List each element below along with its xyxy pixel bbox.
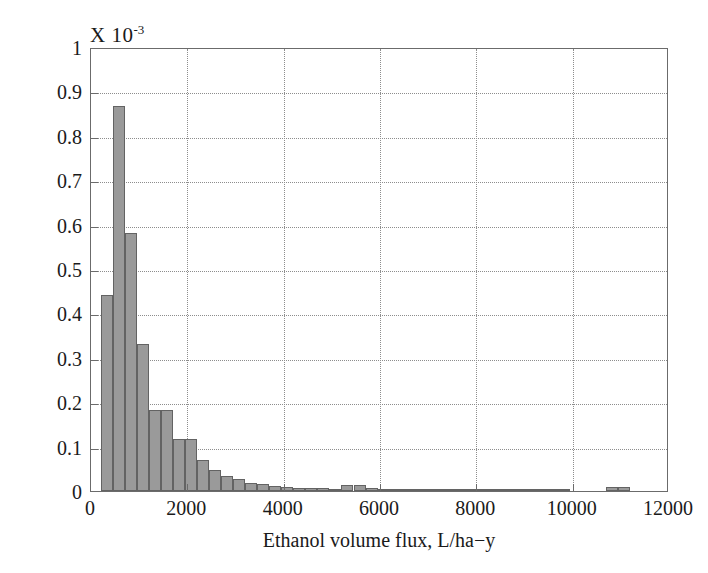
y-tick-label: 0.6 bbox=[22, 216, 82, 236]
tick-mark-y bbox=[91, 138, 98, 139]
y-tick-label: 0.2 bbox=[22, 393, 82, 413]
tick-mark-y bbox=[91, 449, 98, 450]
chart-figure: X 10-3 Probability distribution function… bbox=[0, 0, 708, 573]
exponent-prefix: X 10 bbox=[90, 23, 133, 47]
y-tick-label: 0.1 bbox=[22, 438, 82, 458]
tick-mark-x bbox=[187, 484, 188, 491]
x-axis-title: Ethanol volume flux, L/ha−y bbox=[90, 529, 668, 552]
y-tick-label: 0.4 bbox=[22, 304, 82, 324]
tick-mark-x bbox=[573, 484, 574, 491]
tick-mark-y bbox=[91, 404, 98, 405]
y-tick-label: 0.8 bbox=[22, 127, 82, 147]
y-tick-label: 1 bbox=[22, 38, 82, 58]
axis-ticks bbox=[91, 49, 667, 491]
y-tick-label: 0.5 bbox=[22, 260, 82, 280]
y-tick-label: 0.7 bbox=[22, 171, 82, 191]
x-axis-tick-labels: 020004000600080001000012000 bbox=[90, 498, 668, 524]
y-axis-exponent-label: X 10-3 bbox=[90, 22, 144, 48]
exponent-power: -3 bbox=[133, 22, 144, 37]
tick-mark-y bbox=[91, 93, 98, 94]
y-tick-label: 0.3 bbox=[22, 349, 82, 369]
plot-area bbox=[90, 48, 668, 492]
y-axis-tick-labels: 00.10.20.30.40.50.60.70.80.91 bbox=[20, 48, 82, 492]
tick-mark-x bbox=[380, 484, 381, 491]
x-tick-label: 12000 bbox=[608, 498, 708, 518]
tick-mark-y bbox=[91, 227, 98, 228]
tick-mark-y bbox=[91, 315, 98, 316]
tick-mark-x bbox=[476, 484, 477, 491]
tick-mark-y bbox=[91, 271, 98, 272]
tick-mark-y bbox=[91, 360, 98, 361]
tick-mark-y bbox=[91, 182, 98, 183]
tick-mark-x bbox=[284, 484, 285, 491]
y-tick-label: 0.9 bbox=[22, 82, 82, 102]
